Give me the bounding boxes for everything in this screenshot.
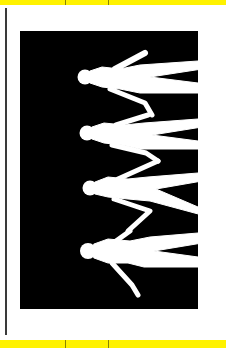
person-silhouette-2 (80, 115, 203, 161)
margin-tick (108, 0, 109, 5)
bottom-margin-bar (0, 340, 226, 348)
person-silhouette-1 (78, 53, 203, 115)
silhouette-photo (20, 31, 198, 309)
silhouette-graphic (20, 31, 210, 309)
person-silhouette-4 (80, 231, 202, 295)
person-silhouette-3 (83, 161, 203, 231)
top-margin-bar (0, 0, 226, 5)
margin-tick (108, 340, 109, 348)
left-border-line (5, 8, 7, 335)
margin-tick (65, 0, 66, 5)
margin-tick (65, 340, 66, 348)
